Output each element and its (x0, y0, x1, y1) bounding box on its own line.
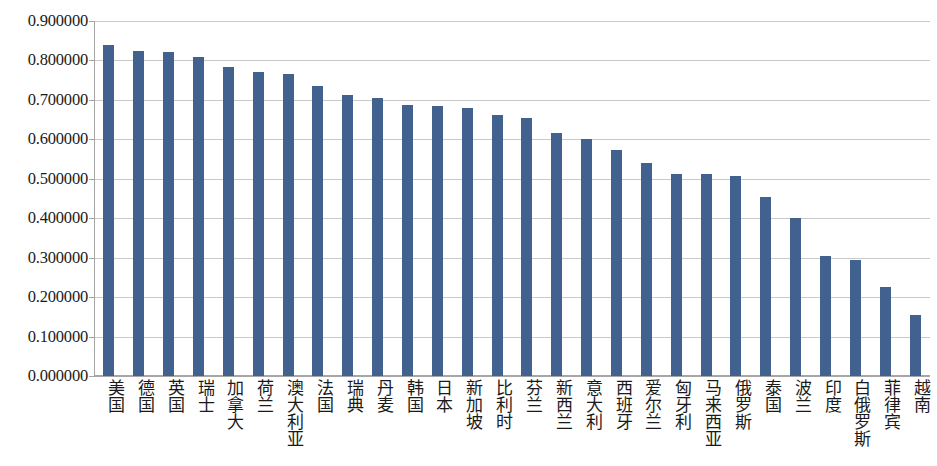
bar (163, 52, 174, 376)
bar (671, 174, 682, 376)
x-axis-label: 英国 (164, 379, 184, 413)
bar (283, 74, 294, 376)
bar (193, 57, 204, 377)
x-axis-label: 德国 (134, 379, 154, 413)
x-axis-label: 日本 (433, 379, 453, 413)
y-axis-label: 0.700000 (0, 92, 88, 109)
bar (521, 118, 532, 376)
x-axis-label: 菲律宾 (881, 379, 901, 430)
x-axis-label: 印度 (821, 379, 841, 413)
x-axis-label: 比利时 (493, 379, 513, 430)
y-axis-label: 0.100000 (0, 328, 88, 345)
x-axis-label: 瑞士 (194, 379, 214, 413)
bar (372, 98, 383, 376)
y-axis: 0.0000000.1000000.2000000.3000000.400000… (0, 0, 88, 466)
y-axis-label: 0.300000 (0, 249, 88, 266)
bar (103, 45, 114, 376)
x-axis-label: 瑞典 (343, 379, 363, 413)
bar (432, 106, 443, 376)
bar-chart: 0.0000000.1000000.2000000.3000000.400000… (0, 0, 937, 466)
x-axis-label: 马来西亚 (702, 379, 722, 447)
bar (581, 139, 592, 376)
bar (760, 197, 771, 376)
y-axis-label: 0.900000 (0, 13, 88, 30)
bar (701, 174, 712, 376)
bar (462, 108, 473, 376)
bar (133, 51, 144, 376)
y-axis-label: 0.000000 (0, 368, 88, 385)
y-axis-label: 0.500000 (0, 171, 88, 188)
bar (312, 86, 323, 376)
x-axis-label: 匈牙利 (672, 379, 692, 430)
bar (253, 72, 264, 376)
x-axis-label: 泰国 (761, 379, 781, 413)
x-axis-label: 韩国 (403, 379, 423, 413)
x-axis-label: 新西兰 (552, 379, 572, 430)
bar (880, 287, 891, 376)
x-axis: 美国德国英国瑞士加拿大荷兰澳大利亚法国瑞典丹麦韩国日本新加坡比利时芬兰新西兰意大… (94, 379, 930, 466)
bars-layer (94, 21, 930, 376)
x-axis-label: 西班牙 (612, 379, 632, 430)
bar (551, 133, 562, 376)
bar (820, 256, 831, 376)
x-axis-label: 白俄罗斯 (851, 379, 871, 447)
x-axis-label: 爱尔兰 (642, 379, 662, 430)
bar (342, 95, 353, 376)
x-axis-label: 新加坡 (463, 379, 483, 430)
bar (790, 218, 801, 376)
bar (910, 315, 921, 376)
x-axis-label: 丹麦 (373, 379, 393, 413)
x-axis-label: 荷兰 (254, 379, 274, 413)
gridline (95, 376, 930, 377)
bar (730, 176, 741, 376)
y-axis-tick (89, 376, 95, 377)
x-axis-label: 越南 (911, 379, 931, 413)
y-axis-label: 0.200000 (0, 289, 88, 306)
y-axis-label: 0.800000 (0, 52, 88, 69)
x-axis-label: 波兰 (791, 379, 811, 413)
x-axis-label: 澳大利亚 (284, 379, 304, 447)
bar (402, 105, 413, 376)
x-axis-label: 美国 (104, 379, 124, 413)
x-axis-label: 法国 (313, 379, 333, 413)
bar (850, 260, 861, 376)
y-axis-label: 0.600000 (0, 131, 88, 148)
x-axis-label: 芬兰 (522, 379, 542, 413)
x-axis-label: 俄罗斯 (731, 379, 751, 430)
bar (641, 163, 652, 376)
y-axis-label: 0.400000 (0, 210, 88, 227)
x-axis-label: 加拿大 (224, 379, 244, 430)
bar (611, 150, 622, 376)
x-axis-label: 意大利 (582, 379, 602, 430)
bar (223, 67, 234, 376)
bar (492, 115, 503, 376)
